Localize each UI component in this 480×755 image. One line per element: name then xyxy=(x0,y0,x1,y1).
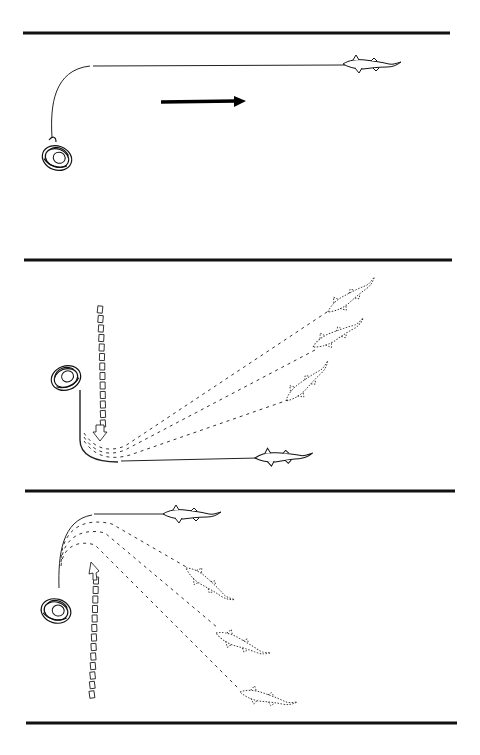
ghost-fish-icon xyxy=(280,356,335,408)
arrow-segment xyxy=(98,325,104,332)
ghost-fish-icon xyxy=(238,683,298,713)
arrow-segment xyxy=(91,653,97,660)
arrow-segment xyxy=(100,410,105,417)
rod-hand xyxy=(49,137,56,142)
arrow-segment xyxy=(91,643,96,650)
arrow-segment xyxy=(90,662,96,669)
ghost-fish-icon xyxy=(309,312,369,355)
arrow-segment xyxy=(98,315,104,322)
fish-icon xyxy=(255,446,314,467)
ghost-fish-icon xyxy=(181,561,239,609)
arrow-segment xyxy=(100,391,105,398)
ghost-fish-icon xyxy=(323,271,381,319)
arrow-segment xyxy=(99,334,104,341)
arrow-segment xyxy=(92,605,97,612)
arrow-segment xyxy=(99,353,104,360)
ghost-fish-icon xyxy=(213,625,274,663)
arrow-segment xyxy=(89,681,95,689)
arrow-segment xyxy=(100,363,105,370)
arrow-segment xyxy=(93,596,98,603)
arrow-segment xyxy=(90,672,96,680)
arrow-segment xyxy=(99,344,104,351)
arrow-segment xyxy=(91,634,96,641)
arrow-segment xyxy=(93,586,98,593)
fishing-line xyxy=(59,515,92,588)
fish-icon xyxy=(163,505,221,523)
pressure-arrow-up-dashed xyxy=(89,562,99,698)
arrow-segment xyxy=(100,382,105,389)
fish-icon xyxy=(343,55,401,73)
dashed-line-1 xyxy=(61,522,188,568)
arrow-segment xyxy=(97,306,103,313)
arrow-segment xyxy=(92,615,97,622)
dashed-line-2 xyxy=(61,532,218,628)
angler-icon xyxy=(48,362,84,395)
panel-1 xyxy=(39,55,401,174)
angler-icon xyxy=(38,596,73,627)
dashed-line-3 xyxy=(61,543,240,690)
arrow-head xyxy=(93,425,107,441)
arrow-segment xyxy=(89,691,95,699)
arrow-segment xyxy=(92,624,97,631)
panel-2 xyxy=(48,271,381,467)
pressure-arrow-down-dashed xyxy=(93,306,107,441)
fishing-line-straight xyxy=(121,458,258,461)
arrow-segment xyxy=(100,372,105,379)
dashed-line-2 xyxy=(84,350,315,453)
arrow-segment xyxy=(100,401,105,408)
fishing-line xyxy=(52,66,90,137)
fishing-line-straight xyxy=(93,65,345,66)
panel-3 xyxy=(38,505,298,713)
fishing-diagram xyxy=(0,0,480,755)
angler-icon xyxy=(39,142,75,175)
diagram-canvas xyxy=(0,0,480,755)
pressure-arrow-right xyxy=(161,96,246,107)
